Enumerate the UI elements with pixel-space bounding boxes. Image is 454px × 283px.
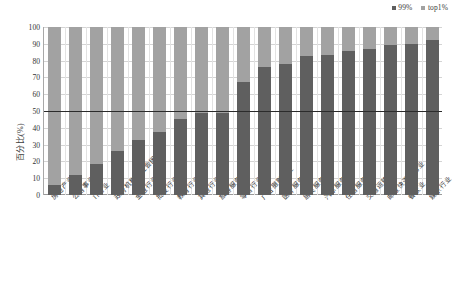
- reference-line-50: [44, 111, 442, 112]
- bar-segment-top1[interactable]: [237, 27, 250, 82]
- bar-segment-top1[interactable]: [342, 27, 355, 51]
- y-tick-label-20: 20: [14, 157, 40, 166]
- bar-segment-top1[interactable]: [279, 27, 292, 64]
- y-tick-label-10: 10: [14, 174, 40, 183]
- bar-segment-99[interactable]: [405, 44, 418, 195]
- bar-segment-top1[interactable]: [90, 27, 103, 164]
- y-tick-label-50: 50: [14, 107, 40, 116]
- bar-segment-99[interactable]: [111, 151, 124, 195]
- bar-segment-99[interactable]: [90, 164, 103, 195]
- y-tick-label-40: 40: [14, 123, 40, 132]
- stacked-bar-chart: 99% top1% 百分比(%) 1009080706050403020100 …: [0, 0, 454, 283]
- bar-segment-99[interactable]: [237, 82, 250, 195]
- y-tick-label-60: 60: [14, 90, 40, 99]
- bar-segment-top1[interactable]: [111, 27, 124, 151]
- bar-segment-top1[interactable]: [216, 27, 229, 113]
- bar-segment-top1[interactable]: [132, 27, 145, 140]
- bar-segment-top1[interactable]: [405, 27, 418, 44]
- bar-segment-top1[interactable]: [48, 27, 61, 185]
- legend-entry-99[interactable]: 99%: [392, 4, 413, 12]
- bar-segment-top1[interactable]: [426, 27, 439, 40]
- y-tick-label-80: 80: [14, 56, 40, 65]
- bar-segment-99[interactable]: [363, 49, 376, 195]
- bar-segment-99[interactable]: [279, 64, 292, 195]
- bar-segment-top1[interactable]: [174, 27, 187, 119]
- y-tick-label-90: 90: [14, 39, 40, 48]
- bar-segment-99[interactable]: [300, 56, 313, 195]
- x-axis-category-labels: 房地产业公用事业IT行业政府机构及社会团体金融行业批发行业教育行业其他行业旅游服…: [43, 196, 442, 283]
- bar-segment-99[interactable]: [384, 45, 397, 195]
- bar-segment-99[interactable]: [426, 40, 439, 195]
- bar-segment-top1[interactable]: [300, 27, 313, 56]
- bar-segment-99[interactable]: [48, 185, 61, 195]
- legend-swatch-99: [392, 6, 396, 10]
- y-tick-label-100: 100: [14, 23, 40, 32]
- legend-label-99: 99%: [398, 4, 412, 12]
- bar-segment-top1[interactable]: [363, 27, 376, 49]
- bar-segment-99[interactable]: [132, 140, 145, 195]
- plot-area: [43, 27, 442, 195]
- bar-segment-top1[interactable]: [195, 27, 208, 113]
- legend-label-top1: top1%: [428, 4, 448, 12]
- bar-segment-99[interactable]: [195, 113, 208, 195]
- bar-segment-top1[interactable]: [321, 27, 334, 55]
- bar-segment-top1[interactable]: [384, 27, 397, 45]
- bar-segment-99[interactable]: [69, 175, 82, 195]
- bar-segment-top1[interactable]: [258, 27, 271, 67]
- bar-segment-99[interactable]: [174, 119, 187, 195]
- legend-swatch-top1: [421, 6, 425, 10]
- y-tick-label-70: 70: [14, 73, 40, 82]
- legend-entry-top1[interactable]: top1%: [421, 4, 448, 12]
- bar-segment-top1[interactable]: [153, 27, 166, 132]
- plot-wrapper: [43, 27, 442, 195]
- bar-segment-99[interactable]: [342, 51, 355, 195]
- bar-segment-99[interactable]: [321, 55, 334, 195]
- bar-segment-top1[interactable]: [69, 27, 82, 175]
- bar-segment-99[interactable]: [258, 67, 271, 195]
- bar-segment-99[interactable]: [153, 132, 166, 195]
- y-tick-label-0: 0: [14, 191, 40, 200]
- y-tick-label-30: 30: [14, 140, 40, 149]
- chart-legend: 99% top1%: [392, 4, 448, 12]
- bar-segment-99[interactable]: [216, 113, 229, 195]
